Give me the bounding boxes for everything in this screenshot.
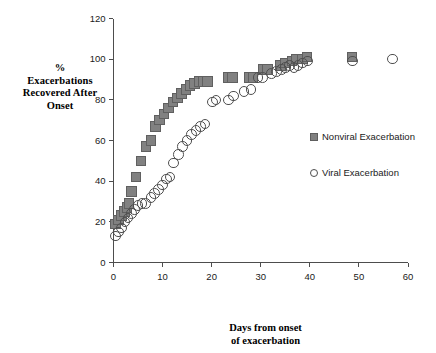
x-axis-title: Days from onset of exacerbation: [178, 322, 353, 347]
x-tick-label: 40: [297, 271, 323, 282]
data-point-viral: [246, 84, 257, 95]
x-tick-label: 0: [101, 271, 127, 282]
data-point-nonviral: [202, 76, 213, 87]
data-point-nonviral: [146, 135, 157, 146]
legend-item-viral: Viral Exacerbation: [308, 166, 436, 178]
x-tick-mark: [358, 263, 359, 267]
data-point-nonviral: [227, 72, 238, 83]
x-axis-title-line-2: of exacerbation: [178, 335, 353, 348]
legend-item-nonviral: Nonviral Exacerbation: [308, 130, 436, 142]
y-tick-label: 100: [80, 53, 106, 64]
data-point-nonviral: [126, 186, 137, 197]
data-point-viral: [302, 56, 313, 67]
x-tick-mark: [211, 263, 212, 267]
y-tick-label: 20: [80, 216, 106, 227]
data-point-viral: [228, 91, 239, 102]
x-tick-label: 20: [199, 271, 225, 282]
data-point-viral: [211, 95, 222, 106]
y-tick-mark: [109, 99, 113, 100]
x-tick-mark: [408, 263, 409, 267]
data-point-viral: [387, 54, 398, 65]
x-tick-mark: [113, 263, 114, 267]
y-tick-label: 80: [80, 94, 106, 105]
x-tick-mark: [162, 263, 163, 267]
data-point-viral: [165, 172, 176, 183]
y-tick-mark: [109, 18, 113, 19]
y-tick-label: 60: [80, 135, 106, 146]
chart-legend: Nonviral Exacerbation Viral Exacerbation: [308, 130, 436, 202]
x-tick-label: 30: [248, 271, 274, 282]
legend-label-nonviral: Nonviral Exacerbation: [322, 131, 415, 142]
x-tick-mark: [260, 263, 261, 267]
y-tick-label: 40: [80, 175, 106, 186]
x-axis-title-line-1: Days from onset: [178, 322, 353, 335]
y-tick-label: 120: [80, 13, 106, 24]
circle-marker-icon: [308, 166, 320, 178]
legend-label-viral: Viral Exacerbation: [322, 167, 399, 178]
data-point-nonviral: [131, 172, 142, 183]
y-axis-title-line-2: Exacerbations: [14, 75, 106, 88]
y-tick-mark: [109, 181, 113, 182]
x-tick-mark: [309, 263, 310, 267]
y-tick-mark: [109, 59, 113, 60]
y-tick-label: 0: [80, 257, 106, 268]
x-tick-label: 50: [346, 271, 372, 282]
data-point-nonviral: [136, 156, 147, 167]
data-point-viral: [347, 56, 358, 67]
chart-figure: % Exacerbations Recovered After Onset Da…: [0, 0, 436, 353]
x-tick-label: 10: [150, 271, 176, 282]
x-tick-label: 60: [395, 271, 421, 282]
y-tick-mark: [109, 140, 113, 141]
square-marker-icon: [308, 130, 320, 142]
data-point-viral: [200, 119, 211, 130]
